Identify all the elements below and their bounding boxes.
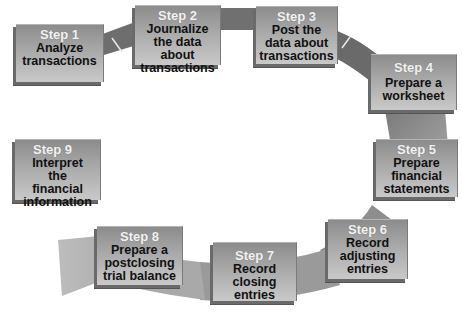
step-5-box: Step 5 Prepare financial statements	[376, 139, 458, 197]
step-4-label: Step 4	[371, 58, 456, 75]
step-2-box: Step 2 Journalize the data about transac…	[135, 5, 221, 65]
step-2-desc: Journalize the data about transactions	[135, 23, 220, 75]
step-6-desc: Record adjusting entries	[328, 237, 407, 276]
step-1-label: Step 1	[16, 28, 103, 42]
step-9-box: Step 9 Interpret the financial informati…	[15, 139, 101, 200]
step-6-box: Step 6 Record adjusting entries	[328, 219, 408, 279]
step-8-desc: Prepare a postclosing trial balance	[97, 244, 182, 283]
step-7-desc: Record closing entries	[213, 263, 296, 302]
step-7-label: Step 7	[213, 246, 296, 263]
step-7-box: Step 7 Record closing entries	[213, 242, 297, 301]
step-5-desc: Prepare financial statements	[376, 157, 457, 196]
step-1-desc: Analyze transactions	[16, 42, 103, 68]
step-4-box: Step 4 Prepare a worksheet	[371, 54, 457, 110]
step-8-box: Step 8 Prepare a postclosing trial balan…	[97, 226, 183, 285]
step-9-desc: Interpret the financial information	[15, 157, 100, 209]
step-5-label: Step 5	[376, 143, 457, 157]
step-1-box: Step 1 Analyze transactions	[16, 24, 104, 82]
step-2-label: Step 2	[135, 9, 220, 23]
step-3-box: Step 3 Post the data about transactions	[256, 6, 338, 64]
step-8-label: Step 8	[97, 230, 182, 244]
step-4-desc: Prepare a worksheet	[371, 75, 456, 103]
step-6-label: Step 6	[328, 223, 407, 237]
step-3-label: Step 3	[256, 10, 337, 24]
step-3-desc: Post the data about transactions	[256, 24, 337, 63]
step-9-label: Step 9	[15, 143, 100, 157]
